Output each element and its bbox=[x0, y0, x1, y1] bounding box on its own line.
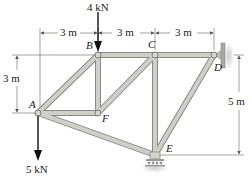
joint-a bbox=[35, 110, 41, 116]
load-label-a: 5 kN bbox=[26, 164, 48, 175]
ground-shadow bbox=[141, 163, 169, 173]
joint-f bbox=[95, 110, 101, 116]
dimension-top-2: 3 m bbox=[117, 27, 134, 38]
joint-b bbox=[95, 52, 101, 58]
dimension-top-1: 3 m bbox=[60, 27, 77, 38]
truss-diagram: 4 kN 5 kN 3 m 3 m 3 m 3 m 5 m B C D A F … bbox=[0, 0, 252, 189]
dimension-right: 5 m bbox=[228, 96, 245, 107]
joint-label-d: D bbox=[214, 62, 222, 73]
dimension-lines bbox=[12, 28, 244, 155]
dimension-top-3: 3 m bbox=[175, 27, 192, 38]
joint-d bbox=[211, 52, 217, 58]
joint-label-c: C bbox=[148, 39, 155, 50]
joint-label-f: F bbox=[102, 113, 109, 124]
joint-label-b: B bbox=[86, 40, 93, 51]
joint-label-e: E bbox=[166, 143, 173, 154]
truss-members bbox=[38, 55, 214, 155]
joint-c bbox=[152, 52, 158, 58]
load-label-b: 4 kN bbox=[87, 2, 109, 13]
joint-label-a: A bbox=[29, 99, 36, 110]
dimension-left: 3 m bbox=[3, 73, 20, 84]
